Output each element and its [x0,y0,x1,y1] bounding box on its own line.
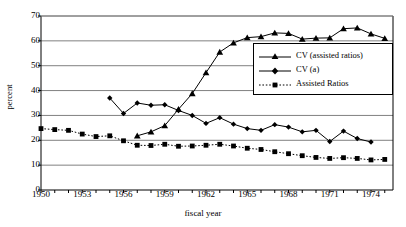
data-point-marker [314,155,319,160]
series-assisted-ratios [39,126,388,162]
data-point-marker [216,49,223,55]
legend-key-triangle-icon [258,49,292,61]
legend-key-square-icon [258,77,292,89]
data-point-marker [286,124,291,129]
data-point-marker [286,151,291,156]
data-point-marker [204,143,209,148]
legend-item-cv-assisted-ratios: CV (assisted ratios) [258,48,387,62]
series-cv-a [107,95,374,144]
chart-legend: CV (assisted ratios) CV (a) Assisted Rat… [253,43,393,95]
data-point-marker [368,31,375,37]
data-point-marker [149,143,154,148]
data-point-marker [39,126,44,131]
data-point-marker [148,129,155,135]
plot-area [0,0,406,227]
legend-item-cv-a: CV (a) [258,62,387,76]
legend-item-assisted-ratios: Assisted Ratios [258,76,387,90]
data-point-marker [189,90,196,96]
data-point-marker [382,157,387,162]
data-point-marker [231,121,236,126]
data-point-marker [300,153,305,158]
data-point-marker [107,133,112,138]
legend-key-diamond-icon [258,63,292,75]
data-point-marker [52,127,57,132]
data-point-marker [176,144,181,149]
data-point-marker [80,132,85,137]
chart-figure: percent fiscal year 010203040506070 1950… [0,0,406,227]
data-point-marker [162,102,167,107]
data-point-marker [135,143,140,148]
data-point-marker [259,147,264,152]
data-point-marker [245,126,250,131]
data-point-marker [217,142,222,147]
data-point-marker [272,149,277,154]
data-point-marker [176,108,181,113]
data-point-marker [66,128,71,133]
data-point-marker [341,155,346,160]
data-point-marker [369,158,374,163]
data-point-marker [203,69,210,75]
data-point-marker [94,134,99,139]
data-point-marker [258,128,263,133]
data-point-marker [121,138,126,143]
legend-label: CV (assisted ratios) [292,50,363,60]
data-point-marker [355,156,360,161]
data-point-marker [190,113,195,118]
data-point-marker [148,103,153,108]
data-point-marker [272,122,277,127]
data-point-marker [231,144,236,149]
data-point-marker [245,146,250,151]
data-point-marker [162,142,167,147]
data-point-marker [203,121,208,126]
data-point-marker [327,156,332,161]
legend-label: CV (a) [292,64,319,74]
data-point-marker [190,144,195,149]
series-line [41,129,385,160]
legend-label: Assisted Ratios [292,78,349,88]
data-point-marker [300,129,305,134]
